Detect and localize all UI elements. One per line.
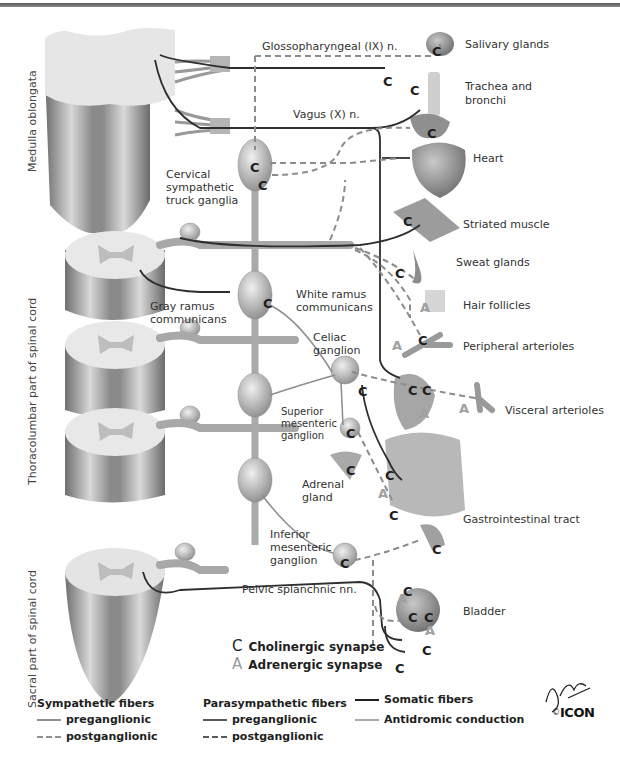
svg-text:C: C <box>395 266 405 281</box>
label-adrenal-gland: Adrenal gland <box>302 478 344 504</box>
label-inferior-mesenteric-ganglion: Inferior mesenteric ganglion <box>270 528 332 567</box>
organ-label-salivary-glands: Salivary glands <box>465 38 549 51</box>
label-line: mesenteric <box>281 418 337 430</box>
label-celiac-ganglion: Celiac ganglion <box>313 331 361 357</box>
legend-label: Adrenergic synapse <box>248 658 382 672</box>
medulla-oblongata <box>45 28 175 233</box>
organ-label-hair-follicles: Hair follicles <box>463 299 530 312</box>
svg-text:A: A <box>420 300 430 315</box>
solid-line-icon <box>203 719 227 721</box>
svg-text:C: C <box>427 126 437 141</box>
legend-label: preganglionic <box>232 713 317 726</box>
label-superior-mesenteric-ganglion: Superior mesenteric ganglion <box>281 406 337 442</box>
organ-label-sweat-glands: Sweat glands <box>456 256 530 269</box>
label-line: Adrenal <box>302 478 344 491</box>
svg-text:C: C <box>358 384 368 399</box>
label-line: communicans <box>150 313 227 326</box>
legend-parasympathetic-post: postganglionic <box>203 730 323 743</box>
label-line: Superior <box>281 406 337 418</box>
legend-label: postganglionic <box>232 730 323 743</box>
legend-sympathetic-title: Sympathetic fibers <box>37 697 154 710</box>
label-line: mesenteric <box>270 541 332 554</box>
organ-label-peripheral-arterioles: Peripheral arterioles <box>463 340 574 353</box>
legend-label: Antidromic conduction <box>384 713 524 726</box>
svg-text:A: A <box>397 591 407 606</box>
legend-label: Somatic fibers <box>384 693 473 706</box>
svg-text:A: A <box>392 338 402 353</box>
svg-text:C: C <box>403 214 413 229</box>
netter-signature-logo: © ICON <box>538 668 598 732</box>
svg-text:C: C <box>250 160 260 175</box>
svg-text:C: C <box>422 643 432 658</box>
svg-text:C: C <box>432 44 442 59</box>
legend-sympathetic-post: postganglionic <box>37 730 157 743</box>
adrenergic-a-icon: A <box>232 655 242 673</box>
organ-label-bronchi: bronchi <box>465 94 506 107</box>
label-line: Gray ramus <box>150 300 227 313</box>
region-label-thoracolumbar: Thoracolumbar part of spinal cord <box>26 298 39 485</box>
svg-text:C: C <box>346 426 356 441</box>
icon-logo: ICON <box>560 705 594 720</box>
svg-text:C: C <box>258 178 268 193</box>
lumbar-segment <box>65 408 165 503</box>
label-line: sympathetic <box>166 181 238 194</box>
svg-text:A: A <box>378 486 388 501</box>
thoracic-segment-2 <box>65 321 165 418</box>
solid-line-icon <box>355 719 379 721</box>
svg-text:C: C <box>383 74 393 89</box>
label-gray-ramus: Gray ramus communicans <box>150 300 227 326</box>
cholinergic-c-icon: C <box>232 637 242 655</box>
label-line: White ramus <box>296 288 373 301</box>
svg-text:C: C <box>408 383 418 398</box>
label-line: gland <box>302 491 344 504</box>
legend-somatic: Somatic fibers <box>355 693 473 706</box>
dashed-line-icon <box>203 736 227 738</box>
legend-antidromic: Antidromic conduction <box>355 713 524 726</box>
celiac-ganglion <box>331 356 359 384</box>
label-pelvic-splanchnic-nerves: Pelvic splanchnic nn. <box>242 583 357 596</box>
legend-parasympathetic-title: Parasympathetic fibers <box>203 697 347 710</box>
label-line: communicans <box>296 301 373 314</box>
svg-text:C: C <box>418 333 428 348</box>
svg-text:A: A <box>459 401 469 416</box>
sacral-segment <box>65 548 165 705</box>
label-line: truck ganglia <box>166 194 238 207</box>
svg-text:C: C <box>432 542 442 557</box>
label-line: Inferior <box>270 528 332 541</box>
svg-text:C: C <box>410 83 420 98</box>
organ-label-visceral-arterioles: Visceral arterioles <box>505 404 604 417</box>
svg-text:C: C <box>385 468 395 483</box>
label-line: ganglion <box>281 430 337 442</box>
legend-parasympathetic-pre: preganglionic <box>203 713 317 726</box>
legend-adrenergic: AAdrenergic synapse <box>232 655 382 673</box>
legend-cholinergic: CCholinergic synapse <box>232 637 384 655</box>
label-line: Cervical <box>166 168 238 181</box>
svg-text:C: C <box>422 383 432 398</box>
svg-text:C: C <box>340 556 350 571</box>
svg-text:C: C <box>346 463 356 478</box>
label-line: ganglion <box>313 344 361 357</box>
organ-label-heart: Heart <box>473 152 504 165</box>
solid-line-icon <box>37 719 61 721</box>
solid-line-icon <box>355 699 379 701</box>
organ-label-trachea: Trachea and <box>465 80 532 93</box>
svg-text:A: A <box>425 623 435 638</box>
copyright-mark: © <box>552 708 560 717</box>
svg-text:C: C <box>263 296 273 311</box>
organ-label-striated-muscle: Striated muscle <box>463 218 549 231</box>
label-glossopharyngeal-nerve: Glossopharyngeal (IX) n. <box>262 40 398 53</box>
legend-label: postganglionic <box>66 730 157 743</box>
region-label-medulla: Medulla oblongata <box>26 70 39 172</box>
svg-text:A: A <box>428 526 438 541</box>
label-vagus-nerve: Vagus (X) n. <box>293 108 360 121</box>
organ-label-gastrointestinal-tract: Gastrointestinal tract <box>463 513 580 526</box>
region-label-sacral: Sacral part of spinal cord <box>26 570 39 708</box>
dashed-line-icon <box>37 736 61 738</box>
label-line: ganglion <box>270 554 332 567</box>
legend-label: preganglionic <box>66 713 151 726</box>
label-line: Celiac <box>313 331 361 344</box>
svg-text:C: C <box>389 508 399 523</box>
signature-icon <box>538 668 598 732</box>
organ-label-bladder: Bladder <box>463 605 506 618</box>
svg-text:C: C <box>395 661 405 676</box>
